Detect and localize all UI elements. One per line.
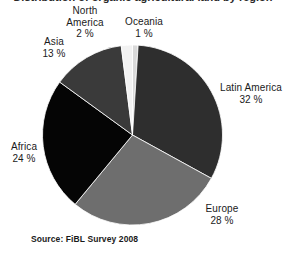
slice-label-europe: Europe 28 %: [196, 203, 248, 226]
label-percent-asia: 13 %: [30, 48, 78, 60]
label-name-north-america-line1: North: [55, 5, 115, 17]
label-percent-africa: 24 %: [2, 153, 46, 165]
pie-slice-group: [42, 45, 222, 225]
label-name-oceania: Oceania: [119, 16, 169, 28]
slice-label-africa: Africa 24 %: [2, 141, 46, 164]
label-name-asia: Asia: [30, 36, 78, 48]
label-percent-europe: 28 %: [196, 215, 248, 227]
label-name-africa: Africa: [2, 141, 46, 153]
pie-chart-figure: Distribution of organic agricultural lan…: [0, 0, 286, 253]
label-name-north-america-line2: America: [55, 17, 115, 29]
slice-label-north-america: North America 2 %: [55, 5, 115, 40]
label-name-europe: Europe: [196, 203, 248, 215]
label-percent-oceania: 1 %: [119, 28, 169, 40]
label-name-latin-america: Latin America: [218, 82, 284, 94]
slice-label-latin-america: Latin America 32 %: [218, 82, 284, 105]
slice-label-oceania: Oceania 1 %: [119, 16, 169, 39]
slice-label-asia: Asia 13 %: [30, 36, 78, 59]
source-note: Source: FiBL Survey 2008: [31, 234, 138, 244]
label-percent-latin-america: 32 %: [218, 94, 284, 106]
